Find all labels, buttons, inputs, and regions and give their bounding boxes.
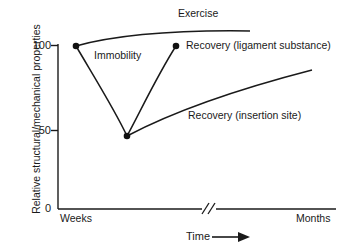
x-axis-title: Time bbox=[186, 231, 210, 242]
series-curve-recovery-insertion bbox=[127, 70, 312, 136]
series-label-recovery-insertion: Recovery (insertion site) bbox=[188, 110, 301, 121]
series-label-immobility: Immobility bbox=[94, 50, 141, 61]
y-tick-label-50: 50 bbox=[23, 125, 51, 136]
data-point-recovered bbox=[173, 43, 180, 50]
y-tick-label-0: 0 bbox=[23, 203, 51, 214]
figure-container: Relative structural/mechanical propertie… bbox=[0, 0, 348, 251]
data-point-baseline bbox=[73, 43, 80, 50]
y-tick-label-100: 100 bbox=[23, 40, 51, 51]
time-arrow-head bbox=[238, 232, 250, 242]
x-axis-break-slash-1 bbox=[202, 203, 209, 214]
data-point-nadir bbox=[124, 133, 131, 140]
y-axis-title-wrap: Relative structural/mechanical propertie… bbox=[0, 0, 22, 251]
series-label-exercise: Exercise bbox=[178, 8, 218, 19]
x-axis-start-label: Weeks bbox=[60, 213, 92, 224]
x-axis-end-label: Months bbox=[296, 213, 330, 224]
series-label-recovery-ligament: Recovery (ligament substance) bbox=[186, 40, 331, 51]
x-axis-break-slash-2 bbox=[208, 203, 215, 214]
